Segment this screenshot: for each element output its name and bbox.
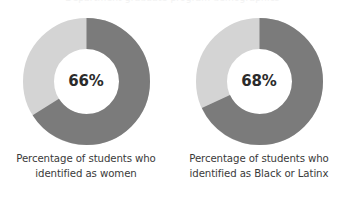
donut-graphic-black-latinx: 68% [173,16,345,146]
donut-slices-black-latinx [211,33,307,129]
donut-slices-women [38,33,134,129]
donut-caption-women: Percentage of students who identified as… [2,152,170,181]
donut-svg-black-latinx [196,18,323,145]
donut-caption-black-latinx: Percentage of students who identified as… [175,152,343,181]
donut-chart-figure: Department graduate program demographics… [0,0,345,199]
donut-graphic-women: 66% [0,16,172,146]
caption-line-1: Percentage of students who [2,152,170,167]
caption-line-2: identified as Black or Latinx [175,167,343,182]
donut-ring-black-latinx: 68% [196,18,323,145]
caption-line-2: identified as women [2,167,170,182]
donut-chart-panel-women: 66% Percentage of students who identifie… [0,0,172,199]
donut-charts-row: 66% Percentage of students who identifie… [0,0,345,199]
donut-ring-women: 66% [23,18,150,145]
caption-line-1: Percentage of students who [175,152,343,167]
donut-svg-women [23,18,150,145]
donut-chart-panel-black-latinx: 68% Percentage of students who identifie… [173,0,345,199]
